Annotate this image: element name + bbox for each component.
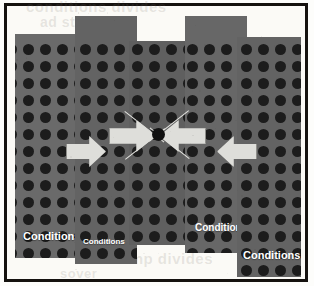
diagram-stage: ConditionsConditionsConditionsConditions bbox=[9, 8, 304, 277]
paper-speckle bbox=[158, 253, 159, 254]
paper-speckle bbox=[75, 269, 76, 270]
figure-root: conditions divides ad structure ump divi… bbox=[0, 0, 314, 286]
panel-1-label: Conditions bbox=[23, 230, 80, 242]
panel-2-label: Conditions bbox=[83, 237, 125, 246]
paper-speckle bbox=[87, 275, 89, 277]
paper-speckle bbox=[49, 28, 50, 29]
paper-speckle bbox=[78, 12, 79, 13]
paper-speckle bbox=[99, 9, 100, 10]
paper-speckle bbox=[88, 13, 89, 14]
paper-speckle bbox=[107, 12, 109, 14]
paper-speckle bbox=[227, 273, 228, 274]
paper-speckle bbox=[143, 253, 145, 255]
panel-5-label: Conditions bbox=[243, 249, 300, 261]
focus-dot[interactable] bbox=[152, 128, 165, 141]
